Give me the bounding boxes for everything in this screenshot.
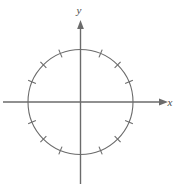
y-axis-label: y — [76, 4, 82, 16]
y-axis-arrowhead — [77, 20, 84, 29]
unit-circle-figure: x y — [0, 0, 180, 188]
x-axis-label: x — [167, 96, 173, 108]
figure-canvas: x y — [0, 0, 180, 188]
